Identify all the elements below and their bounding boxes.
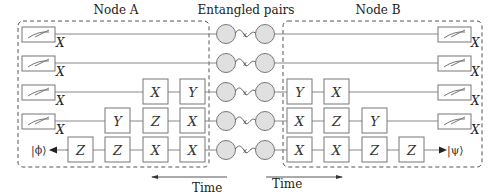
gate-label: Z [331, 114, 342, 129]
gate-label: X [150, 85, 161, 100]
entangled-pair-2 [217, 54, 275, 73]
basis-label: X [55, 123, 65, 137]
teleportation-circuit-diagram: Node A Entangled pairs Node B X X X X X … [0, 0, 498, 196]
gate-label: X [331, 85, 342, 100]
basis-label: X [470, 123, 480, 137]
node-b-title: Node B [355, 3, 400, 17]
gate-label: X [150, 143, 161, 158]
basis-label: X [470, 65, 480, 79]
output-arrow-icon [49, 147, 57, 154]
entangled-pair-4 [217, 112, 275, 131]
gate-label: X [187, 143, 198, 158]
gate-label: Z [150, 114, 161, 129]
output-arrow-icon [439, 147, 447, 154]
meter-icon [22, 85, 55, 100]
basis-label: X [55, 36, 65, 50]
basis-label: X [55, 65, 65, 79]
meter-icon [438, 56, 471, 71]
arrow-left-icon [151, 175, 158, 179]
gate-label: Z [112, 143, 123, 158]
gate-label: Y [370, 114, 380, 129]
gate-label: Z [75, 143, 86, 158]
meter-icon [22, 114, 55, 129]
meter-icon [438, 85, 471, 100]
basis-label: X [470, 36, 480, 50]
gate-label: Y [113, 114, 123, 129]
arrow-right-icon [336, 175, 343, 179]
basis-label: X [55, 94, 65, 108]
gate-label: X [331, 143, 342, 158]
entangled-pairs-title: Entangled pairs [198, 3, 295, 17]
gate-label: Z [406, 143, 417, 158]
gate-label: X [294, 114, 305, 129]
state-psi: |ψ⟩ [447, 144, 464, 158]
entangled-pair-3 [217, 83, 275, 102]
gate-label: Y [188, 85, 198, 100]
entangled-pair-1 [217, 25, 275, 44]
meter-icon [22, 27, 55, 42]
gate-label: X [187, 114, 198, 129]
meter-icon [22, 56, 55, 71]
gate-label: Y [295, 85, 305, 100]
node-a-title: Node A [94, 3, 139, 17]
basis-label: X [470, 94, 480, 108]
time-label-right: Time [272, 177, 302, 191]
gate-label: X [294, 143, 305, 158]
time-label-left: Time [192, 181, 222, 195]
meter-icon [438, 27, 471, 42]
meter-icon [438, 114, 471, 129]
state-phi: |ϕ⟩ [31, 144, 47, 158]
gate-label: Z [369, 143, 380, 158]
entangled-pair-5 [217, 141, 275, 160]
